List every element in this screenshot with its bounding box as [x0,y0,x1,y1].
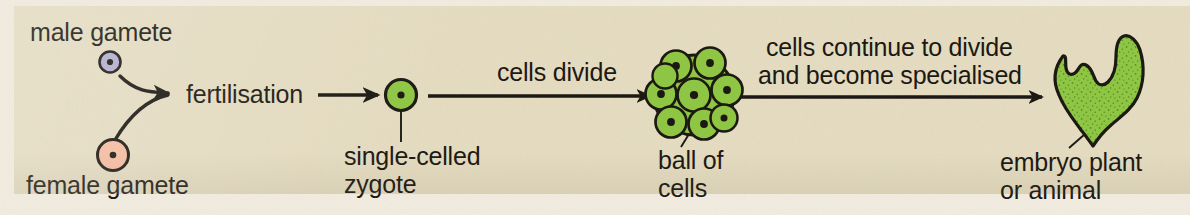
label-fertilisation: fertilisation [186,80,303,108]
label-zygote-line2: zygote [344,170,416,198]
label-zygote-line1: single-celled [344,142,480,170]
label-ball-of-cells-line1: ball of [658,146,723,174]
ball-of-cells [646,48,743,140]
label-specialise-line1: cells continue to divide [766,33,1013,61]
label-ball-of-cells-line2: cells [658,174,707,202]
label-cells-divide: cells divide [497,58,617,86]
zygote-cell [386,80,417,111]
embryo-leader-line [1069,134,1085,148]
label-embryo-line2: or animal [1000,176,1101,204]
female-gamete-cell [98,140,129,171]
arrow-male-gamete-to-fertilisation [120,76,168,93]
biology-development-figure: male gamete female gamete fertilisation … [0,0,1190,215]
ball-of-cells-individual-cells [646,48,743,140]
label-male-gamete: male gamete [30,18,172,46]
label-female-gamete: female gamete [26,171,189,199]
label-embryo-line1: embryo plant [1000,148,1142,176]
arrow-female-gamete-to-fertilisation [115,95,168,140]
male-gamete-cell [100,52,121,73]
embryo-shape [1055,36,1143,146]
label-specialise-line2: and become specialised [758,61,1022,89]
